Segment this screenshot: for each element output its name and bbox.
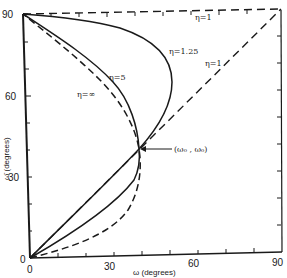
label-eta-1-top: η=1 — [195, 13, 212, 22]
x-tick-30: 30 — [104, 261, 116, 272]
x-axis — [30, 252, 282, 258]
curves — [23, 9, 281, 258]
x-tick-0: 0 — [27, 264, 33, 275]
right-axis — [281, 10, 282, 252]
y-axis — [23, 14, 30, 258]
label-point: (ω₀ , ω₀) — [174, 145, 207, 154]
y-axis-label: ω̄ (degrees) — [2, 137, 11, 180]
curve-eta-1-25 — [23, 14, 172, 258]
curve-eta-inf — [23, 14, 140, 258]
y-tick-60: 60 — [5, 91, 17, 102]
x-axis-label: ω (degrees) — [133, 268, 176, 277]
right-ticks — [277, 36, 281, 225]
curve-eta-1-top — [23, 9, 281, 14]
curve-eta-5 — [23, 14, 139, 258]
label-eta-1-diag: η=1 — [205, 59, 222, 68]
label-eta-inf: η=∞ — [77, 90, 95, 99]
chart: 90 60 30 0 0 30 60 90 ω (degrees) ω̄ (de… — [0, 0, 287, 278]
x-tick-60: 60 — [188, 258, 200, 269]
label-eta-1-25: η=1.25 — [169, 47, 198, 56]
x-tick-90: 90 — [272, 257, 284, 268]
y-tick-0: 0 — [20, 254, 26, 265]
y-tick-90: 90 — [2, 9, 14, 20]
label-eta-5: η=5 — [109, 73, 126, 82]
